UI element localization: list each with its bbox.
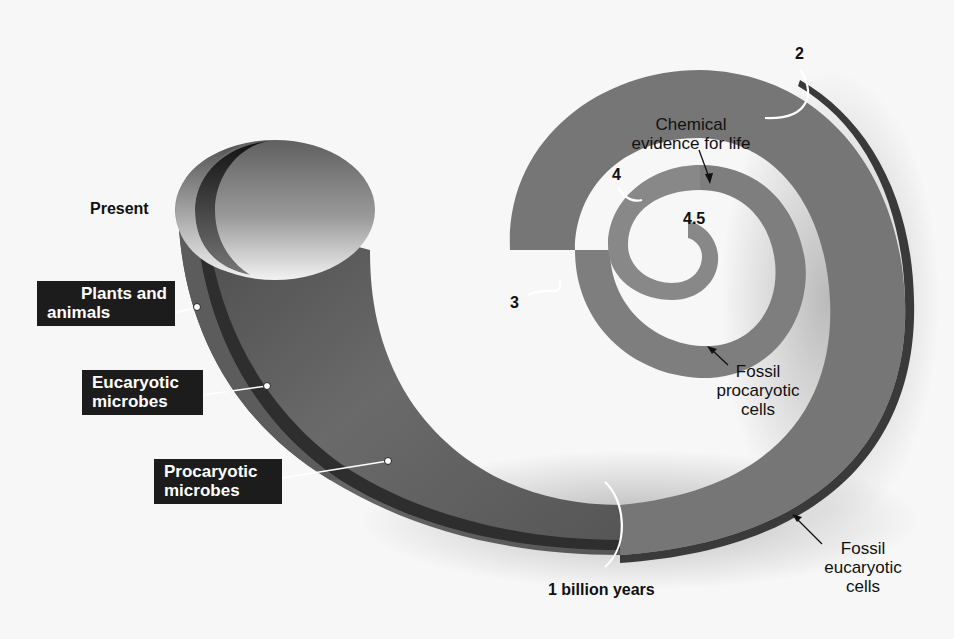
label-line: animals	[47, 303, 167, 322]
marker-label-2: 2	[795, 45, 804, 63]
fossil-procaryotic-annotation: Fossil procaryotic cells	[703, 362, 813, 419]
one-billion-years-label: 1 billion years	[548, 581, 655, 599]
annotation-line: procaryotic	[703, 381, 813, 400]
annotation-line: Fossil	[808, 539, 918, 558]
leader-dot	[385, 458, 392, 465]
marker-label-4: 4	[612, 166, 621, 184]
label-line: Eucaryotic	[92, 373, 195, 392]
annotation-line: Chemical	[616, 115, 766, 134]
leader-dot	[264, 383, 271, 390]
annotation-line: Fossil	[703, 362, 813, 381]
annotation-line: cells	[808, 577, 918, 596]
procaryotic-microbes-label: Procaryotic microbes	[154, 459, 282, 504]
label-line: microbes	[92, 392, 195, 411]
label-line: Plants and	[47, 284, 167, 303]
spiral-diagram: Present Plants and animals Eucaryotic mi…	[0, 0, 954, 639]
annotation-line: eucaryotic	[808, 558, 918, 577]
fossil-eucaryotic-annotation: Fossil eucaryotic cells	[808, 539, 918, 596]
eucaryotic-microbes-label: Eucaryotic microbes	[82, 370, 203, 415]
marker-label-3: 3	[510, 294, 519, 312]
chemical-evidence-annotation: Chemical evidence for life	[616, 115, 766, 153]
annotation-line: evidence for life	[616, 134, 766, 153]
marker-label-4-5: 4.5	[683, 210, 705, 228]
present-label: Present	[90, 200, 149, 218]
label-line: microbes	[164, 481, 274, 500]
annotation-line: cells	[703, 400, 813, 419]
plants-animals-label: Plants and animals	[37, 281, 175, 326]
label-line: Procaryotic	[164, 462, 274, 481]
leader-dot	[194, 304, 201, 311]
marker-3	[528, 280, 560, 295]
